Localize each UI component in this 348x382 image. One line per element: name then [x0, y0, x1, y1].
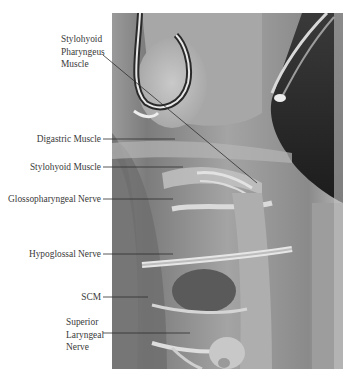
anatomy-figure: Stylohyoid Pharyngeus Muscle Digastric M…: [0, 0, 348, 382]
label-line: Stylohyoid: [61, 33, 105, 46]
surgical-photograph: [112, 13, 343, 369]
label-stylohyoid-pharyngeus: Stylohyoid Pharyngeus Muscle: [61, 33, 105, 71]
label-line: Muscle: [61, 58, 105, 71]
label-line: Pharyngeus: [61, 46, 105, 59]
label-stylohyoid-muscle: Stylohyoid Muscle: [30, 161, 101, 174]
label-line: Laryngeal: [66, 329, 104, 342]
label-line: Nerve: [66, 341, 104, 354]
label-glossopharyngeal-nerve: Glossopharyngeal Nerve: [8, 193, 101, 206]
label-superior-laryngeal-nerve: Superior Laryngeal Nerve: [66, 316, 104, 354]
label-hypoglossal-nerve: Hypoglossal Nerve: [29, 248, 101, 261]
label-digastric-muscle: Digastric Muscle: [37, 133, 101, 146]
label-line: Superior: [66, 316, 104, 329]
label-scm: SCM: [81, 291, 101, 304]
